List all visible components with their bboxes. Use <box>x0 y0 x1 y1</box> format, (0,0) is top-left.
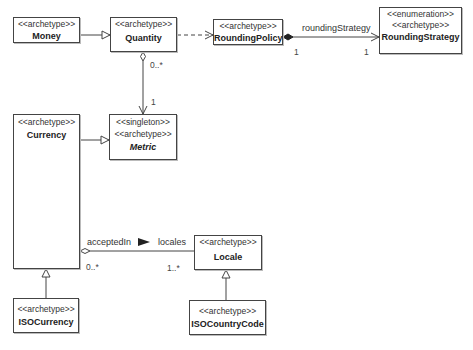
stereotype: <<archetype>> <box>111 19 176 30</box>
class-name: RoundingStrategy <box>380 31 461 44</box>
class-iso-currency[interactable]: <<archetype>> ISOCurrency <box>13 298 79 333</box>
stereotype: <<enumeration>> <box>380 9 461 20</box>
class-name: ISOCurrency <box>14 316 78 329</box>
class-name: RoundingPolicy <box>214 32 282 45</box>
stereotype: <<archetype>> <box>14 19 79 30</box>
class-money[interactable]: <<archetype>> Money <box>13 17 80 43</box>
role-locales: locales <box>158 237 186 247</box>
class-rounding-strategy[interactable]: <<enumeration>> <<archetype>> RoundingSt… <box>379 7 462 54</box>
stereotype: <<singleton>> <box>110 117 176 128</box>
stereotype: <<archetype>> <box>14 304 78 315</box>
stereotype: <<archetype>> <box>380 20 461 31</box>
class-iso-country-code[interactable]: <<archetype>> ISOCountryCode <box>189 300 266 335</box>
association-label-accepted-in: acceptedIn <box>87 237 131 247</box>
direction-arrow-icon <box>138 238 150 246</box>
stereotype: <<archetype>> <box>110 129 176 140</box>
multiplicity-rounding-strategy: 1 <box>364 47 369 57</box>
class-currency[interactable]: <<archetype>> Currency <box>13 114 80 269</box>
class-rounding-policy[interactable]: <<archetype>> RoundingPolicy <box>213 19 283 45</box>
class-name: Money <box>14 30 79 43</box>
class-metric[interactable]: <<singleton>> <<archetype>> Metric <box>109 114 177 160</box>
role-rounding-strategy: roundingStrategy <box>302 23 371 33</box>
class-quantity[interactable]: <<archetype>> Quantity <box>110 17 177 52</box>
class-name: ISOCountryCode <box>190 318 265 331</box>
class-name: Quantity <box>111 32 176 45</box>
multiplicity-locale: 1..* <box>167 263 180 273</box>
class-name: Locale <box>195 251 261 264</box>
class-name: Metric <box>110 141 176 154</box>
stereotype: <<archetype>> <box>14 117 79 128</box>
class-locale[interactable]: <<archetype>> Locale <box>194 235 262 270</box>
stereotype: <<archetype>> <box>190 306 265 317</box>
class-name: Currency <box>14 129 79 142</box>
multiplicity-metric: 1 <box>151 97 156 107</box>
stereotype: <<archetype>> <box>214 21 282 32</box>
stereotype: <<archetype>> <box>195 237 261 248</box>
multiplicity-rounding-policy: 1 <box>294 47 299 57</box>
multiplicity-currency: 0..* <box>86 262 99 272</box>
multiplicity-quantity: 0..* <box>150 60 163 70</box>
